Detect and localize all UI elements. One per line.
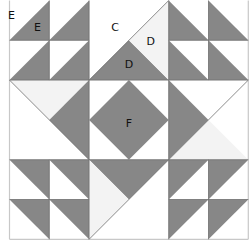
patch-label-c: C [111,21,119,34]
patch-label-e: E [8,9,15,22]
quilt-block-diagram: EECDDF [0,0,250,249]
patch-label-d: D [147,35,155,48]
patch-label-d: D [125,58,133,71]
patch-label-e: E [34,21,41,34]
patch-label-f: F [126,117,132,130]
